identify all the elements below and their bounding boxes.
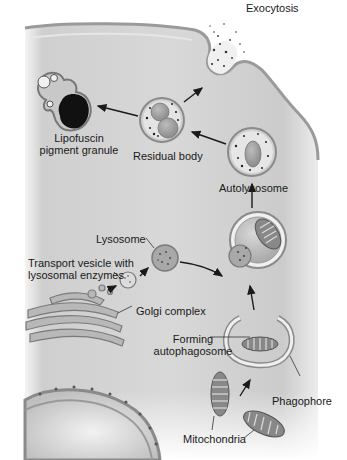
label-transport-line2: lysosomal enzymes: [28, 269, 134, 281]
label-exocytosis: Exocytosis: [246, 2, 299, 14]
residual-body: [140, 98, 184, 142]
autolysosome: [228, 128, 276, 176]
label-autolysosome: Autolysosome: [219, 182, 288, 194]
lysosome: [152, 245, 178, 271]
label-forming-line2: autophagosome: [148, 345, 238, 357]
label-residual-body: Residual body: [133, 150, 203, 162]
label-golgi: Golgi complex: [136, 305, 206, 317]
label-transport-vesicle: Transport vesicle with lysosomal enzymes: [28, 257, 134, 281]
label-forming-autophagosome: Forming autophagosome: [148, 333, 238, 357]
autophagosome-fusion: [229, 212, 286, 268]
label-forming-line1: Forming: [148, 333, 238, 345]
label-transport-line1: Transport vesicle with: [28, 257, 134, 269]
label-lipofuscin: Lipofuscin pigment granule: [34, 132, 124, 156]
diagram-canvas: [0, 0, 347, 460]
label-phagophore: Phagophore: [272, 395, 332, 407]
label-lysosome: Lysosome: [96, 233, 146, 245]
label-lipofuscin-line1: Lipofuscin: [34, 132, 124, 144]
label-lipofuscin-line2: pigment granule: [34, 144, 124, 156]
label-mitochondria: Mitochondria: [183, 433, 246, 445]
